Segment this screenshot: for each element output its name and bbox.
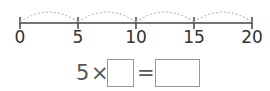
tick-label-10: 10 — [125, 28, 147, 46]
tick-label-20: 20 — [241, 28, 263, 46]
multiplicand: 5 — [76, 60, 89, 86]
tick-label-0: 0 — [15, 28, 26, 46]
jump-arc-3 — [136, 12, 194, 22]
tick-label-15: 15 — [183, 28, 205, 46]
tick-label-5: 5 — [73, 28, 84, 46]
equals-sign: = — [137, 60, 155, 86]
answer-box-product[interactable] — [155, 59, 200, 87]
jump-arc-1 — [20, 12, 78, 22]
jump-arc-2 — [78, 12, 136, 22]
answer-box-factor[interactable] — [107, 59, 134, 87]
times-sign: × — [91, 60, 109, 86]
jump-arc-4 — [194, 12, 252, 22]
